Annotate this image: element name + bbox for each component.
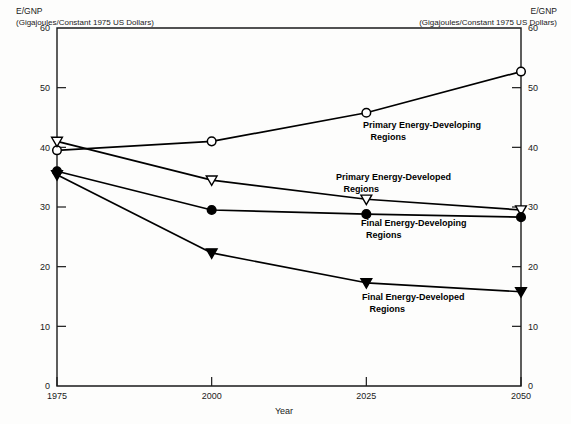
y-tick-label-right: 40 — [528, 143, 538, 153]
series-markers-group — [52, 67, 527, 297]
series-label-primary-energy-developing: Primary Energy-Developing Regions — [363, 120, 481, 143]
y-tick-label-left: 20 — [40, 262, 50, 272]
data-point-marker — [517, 213, 526, 222]
y-tick-label-left: 30 — [40, 202, 50, 212]
energy-intensity-chart: E/GNP (Gigajoules/Constant 1975 US Dolla… — [0, 0, 571, 424]
y-tick-label-left: 40 — [40, 143, 50, 153]
y-tick-label-left: 60 — [40, 23, 50, 33]
y-tick-label-right: 10 — [528, 322, 538, 332]
plot-area: 0102030405060 0102030405060 197520002025… — [0, 0, 571, 424]
x-tick-label: 2000 — [202, 391, 222, 401]
y-tick-label-left: 50 — [40, 83, 50, 93]
series-label-primary-energy-developed: Primary Energy-Developed Regions — [336, 172, 451, 195]
series-lines-group — [57, 72, 521, 292]
x-axis-ticks: 1975200020252050 — [47, 377, 531, 401]
data-point-marker — [517, 67, 526, 76]
x-tick-label: 1975 — [47, 391, 67, 401]
series-label-final-energy-developing: Final Energy-Developing Regions — [361, 218, 467, 241]
y-tick-label-right: 0 — [528, 381, 533, 391]
axis-frame — [57, 28, 521, 386]
x-tick-label: 2050 — [511, 391, 531, 401]
data-point-marker — [207, 206, 216, 215]
y-tick-label-right: 30 — [528, 202, 538, 212]
y-tick-label-left: 10 — [40, 322, 50, 332]
x-axis-title: Year — [275, 406, 293, 416]
y-tick-label-right: 50 — [528, 83, 538, 93]
y-tick-label-right: 60 — [528, 23, 538, 33]
series-line-1 — [57, 141, 521, 210]
series-label-final-energy-developed: Final Energy-Developed Regions — [362, 292, 465, 315]
y-axis-left-ticks: 0102030405060 — [40, 23, 66, 391]
y-tick-label-right: 20 — [528, 262, 538, 272]
data-point-marker — [52, 171, 63, 180]
x-tick-label: 2025 — [356, 391, 376, 401]
y-tick-label-left: 0 — [45, 381, 50, 391]
data-point-marker — [362, 108, 371, 117]
data-point-marker — [207, 137, 216, 146]
